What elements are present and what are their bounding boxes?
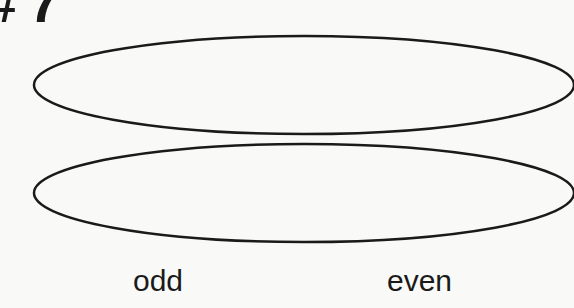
top-oval <box>34 36 574 134</box>
odd-label: odd <box>133 264 183 298</box>
bottom-oval <box>34 144 574 242</box>
even-label: even <box>387 264 452 298</box>
ovals-diagram <box>0 0 574 308</box>
